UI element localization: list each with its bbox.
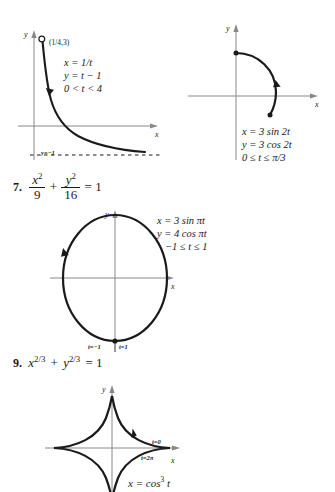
figure-2-circle-arc: y x x = 3 sin 2t y = 3 cos 2t 0 ≤ t ≤ π/…	[186, 0, 335, 172]
figure-1-x-axis-label: x	[155, 130, 159, 139]
figure-2-eq-x: x = 3 sin 2t	[242, 125, 292, 138]
figure-1-point-label: (1/4,3)	[49, 38, 69, 47]
axes-figure-3	[50, 210, 174, 340]
problem-7-equals: = 1	[85, 179, 102, 194]
problem-9-term-x: x2/3	[28, 355, 45, 370]
problem-7-num-y-exp: 2	[71, 171, 75, 181]
problem-9-plus: +	[51, 355, 58, 370]
figure-4-x-axis-label: x	[171, 456, 175, 465]
figure-4-astroid: y x t=0 t=2π x = cos3 t	[40, 378, 260, 492]
figure-3-x-axis-label: x	[171, 282, 175, 291]
figure-2-x-axis-label: x	[315, 100, 319, 109]
problem-9-x-exp: 2/3	[34, 354, 45, 364]
figure-4-t-start-label: t=0	[152, 438, 161, 445]
figure-3-t-left-label: t=−1	[88, 343, 101, 350]
curve-figure-3	[59, 215, 167, 352]
figure-2-eq-y: y = 3 cos 2t	[242, 138, 292, 151]
figure-3-eq-range: −1 ≤ t ≤ 1	[157, 240, 208, 253]
figure-2-eq-range: 0 ≤ t ≤ π/3	[242, 151, 292, 164]
problem-7-numerator-x: x2	[29, 172, 45, 188]
problem-7-number: 7.	[13, 180, 22, 194]
problem-7-fraction-y: y2 16	[61, 172, 80, 203]
figure-4-eq-x-exponent: 3	[160, 475, 164, 484]
problem-9-y-exp: 2/3	[69, 354, 80, 364]
figure-4-eq-x-text: x = cos	[128, 477, 160, 489]
problem-9-equation: 9. x2/3 + y2/3 = 1	[13, 354, 103, 371]
problem-7-fraction-x: x2 9	[29, 172, 45, 203]
figure-3-eq-y: y = 4 cos πt	[157, 227, 208, 240]
figure-1-asymptote-label: y=−1	[41, 149, 55, 156]
problem-7-plus: +	[50, 179, 57, 194]
figure-1-hyperbola: y x (1/4,3) x = 1/t y = t − 1 0 < t < 4 …	[0, 0, 180, 172]
figure-4-eq-x-var: t	[167, 477, 170, 489]
figure-3-t-right-label: t=1	[119, 343, 128, 350]
problem-7-num-x-exp: 2	[38, 171, 42, 181]
problem-9-equals: = 1	[85, 355, 102, 370]
figure-1-eq-range: 0 < t < 4	[64, 82, 102, 95]
problem-9-term-y: y2/3	[63, 355, 80, 370]
problem-7-numerator-y: y2	[61, 172, 80, 188]
figure-1-equations: x = 1/t y = t − 1 0 < t < 4	[64, 56, 102, 95]
figure-2-y-axis-label: y	[226, 24, 230, 33]
figure-3-y-axis-label: y	[105, 210, 109, 219]
figure-3-ellipse: y x x = 3 sin πt y = 4 cos πt −1 ≤ t ≤ 1…	[40, 200, 260, 345]
figure-1-y-axis-label: y	[24, 30, 28, 39]
figure-3-eq-x: x = 3 sin πt	[157, 214, 208, 227]
problem-9-number: 9.	[13, 356, 22, 370]
figure-3-equations: x = 3 sin πt y = 4 cos πt −1 ≤ t ≤ 1	[157, 214, 208, 253]
figure-1-eq-y: y = t − 1	[64, 69, 102, 82]
textbook-page: y x (1/4,3) x = 1/t y = t − 1 0 < t < 4 …	[0, 0, 335, 492]
figure-4-y-axis-label: y	[102, 385, 106, 394]
figure-1-eq-x: x = 1/t	[64, 56, 102, 69]
curve-figure-2	[234, 51, 281, 118]
figure-4-t-end-label: t=2π	[141, 454, 153, 461]
figure-4-equation-x: x = cos3 t	[128, 475, 170, 490]
figure-2-equations: x = 3 sin 2t y = 3 cos 2t 0 ≤ t ≤ π/3	[242, 125, 292, 164]
